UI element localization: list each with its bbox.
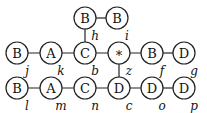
node-label: D	[147, 81, 157, 96]
node-label: B	[12, 81, 22, 96]
node-subscript: k	[57, 64, 64, 78]
node-label: A	[45, 81, 56, 96]
node-z: *z	[108, 42, 133, 78]
node-label: C	[80, 81, 90, 96]
node-subscript: m	[55, 99, 66, 113]
node-i: Bi	[106, 7, 129, 43]
node-k: Ak	[40, 42, 65, 78]
node-j: Bj	[6, 42, 29, 78]
node-subscript: p	[190, 99, 198, 113]
node-label: B	[147, 46, 157, 61]
node-c: Dc	[108, 77, 133, 113]
node-subscript: o	[158, 99, 165, 113]
node-label: B	[12, 46, 22, 61]
node-p: Dp	[173, 77, 198, 113]
graph-diagram: BhBiBjAkCb*zBfDgBlAmCnDcDoDp	[0, 0, 207, 113]
node-n: Cn	[74, 77, 99, 113]
node-f: Bf	[141, 42, 167, 78]
node-g: Dg	[173, 42, 198, 78]
node-o: Do	[141, 77, 166, 113]
node-subscript: l	[25, 99, 29, 113]
node-subscript: f	[159, 64, 167, 78]
node-label: C	[80, 46, 90, 61]
node-m: Am	[40, 77, 67, 113]
node-subscript: b	[91, 64, 99, 78]
node-b: Cb	[74, 42, 99, 78]
node-subscript: g	[190, 64, 198, 78]
node-label: B	[112, 11, 122, 26]
node-label: B	[80, 11, 90, 26]
node-label: D	[114, 81, 124, 96]
node-label: *	[116, 48, 123, 63]
node-subscript: n	[91, 99, 99, 113]
node-subscript: h	[91, 29, 99, 43]
node-label: A	[45, 46, 56, 61]
node-subscript: j	[22, 64, 29, 78]
node-h: Bh	[74, 7, 99, 43]
node-label: D	[179, 46, 189, 61]
node-subscript: i	[125, 29, 129, 43]
node-subscript: c	[126, 99, 133, 113]
node-label: D	[179, 81, 189, 96]
node-subscript: z	[125, 64, 133, 78]
nodes: BhBiBjAkCb*zBfDgBlAmCnDcDoDp	[6, 7, 198, 113]
node-l: Bl	[6, 77, 29, 113]
